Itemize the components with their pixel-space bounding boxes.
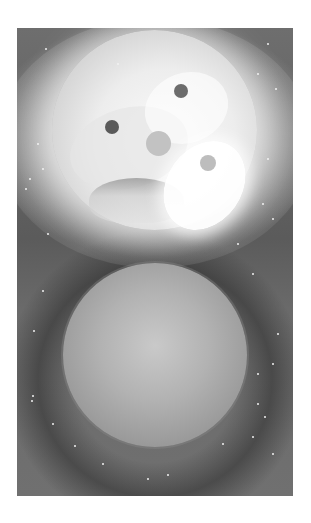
crater <box>105 120 119 134</box>
crater <box>146 131 171 156</box>
crater <box>200 155 216 171</box>
crater <box>174 84 188 98</box>
artwork-illustration <box>17 28 293 496</box>
lower-sphere <box>63 263 247 447</box>
